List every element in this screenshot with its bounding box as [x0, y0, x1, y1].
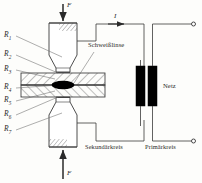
figure-canvas: R1 R2 R3 R4 R5 R6 R7 F F I Schweißlinse … — [0, 0, 202, 183]
label-r2: R2 — [4, 50, 11, 60]
label-netz: Netz — [163, 83, 176, 90]
label-r3: R3 — [4, 65, 11, 75]
label-primaerkreis: Primärkreis — [145, 144, 176, 150]
diagram-body — [16, 4, 196, 179]
label-sekundaerkreis: Sekundärkreis — [85, 144, 123, 150]
label-r1: R1 — [4, 31, 11, 41]
label-force-bottom: F — [67, 170, 71, 177]
spot-welding-diagram — [0, 0, 202, 183]
label-r5: R5 — [4, 96, 11, 106]
label-current: I — [114, 13, 116, 20]
mains-terminal-bottom — [192, 139, 196, 143]
label-schweisslinse: Schweißlinse — [88, 42, 124, 49]
label-r6: R6 — [4, 110, 11, 120]
lower-electrode — [49, 97, 77, 147]
upper-electrode — [49, 23, 77, 73]
label-r4: R4 — [4, 83, 11, 93]
label-force-top: F — [67, 2, 71, 9]
mains-terminal-top — [192, 22, 196, 26]
label-r7: R7 — [4, 125, 11, 135]
weld-nugget — [52, 81, 75, 89]
transformer — [136, 60, 157, 126]
